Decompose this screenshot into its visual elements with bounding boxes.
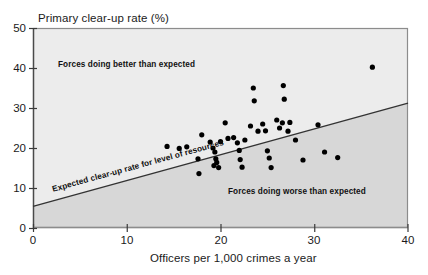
scatter-point (223, 120, 228, 125)
scatter-point (322, 149, 327, 154)
scatter-point (252, 98, 257, 103)
scatter-point (287, 120, 292, 125)
scatter-point (251, 85, 256, 90)
scatter-point (235, 140, 240, 145)
scatter-point (195, 156, 200, 161)
scatter-point (285, 129, 290, 134)
scatter-point (231, 135, 236, 140)
scatter-point (196, 171, 201, 176)
scatter-chart-figure: Primary clear-up rate (%) Officers per 1… (0, 0, 428, 275)
scatter-point (277, 125, 282, 130)
scatter-point (280, 120, 285, 125)
x-axis-title: Officers per 1,000 crimes a year (150, 252, 317, 264)
scatter-point (248, 123, 253, 128)
scatter-point (274, 117, 279, 122)
scatter-point (335, 155, 340, 160)
scatter-point (164, 144, 169, 149)
y-tick-label-40: 40 (4, 62, 26, 74)
scatter-point (237, 148, 242, 153)
scatter-point (281, 83, 286, 88)
scatter-point (263, 128, 268, 133)
scatter-point (269, 165, 274, 170)
y-tick-label-50: 50 (4, 22, 26, 34)
x-tick-label-10: 10 (114, 234, 140, 246)
scatter-point (260, 121, 265, 126)
scatter-point (315, 122, 320, 127)
scatter-point (216, 165, 221, 170)
annotation-better-than-expected: Forces doing better than expected (58, 60, 195, 69)
scatter-point (242, 137, 247, 142)
x-tick-label-30: 30 (301, 234, 327, 246)
y-tick-label-30: 30 (4, 102, 26, 114)
x-tick-label-20: 20 (208, 234, 234, 246)
scatter-point (267, 155, 272, 160)
scatter-point (239, 165, 244, 170)
x-tick-label-0: 0 (20, 234, 46, 246)
scatter-point (293, 137, 298, 142)
annotation-worse-than-expected: Forces doing worse than expected (228, 187, 366, 196)
scatter-point (265, 148, 270, 153)
scatter-point (211, 163, 216, 168)
x-tick-label-40: 40 (395, 234, 421, 246)
scatter-point (282, 97, 287, 102)
y-tick-label-10: 10 (4, 182, 26, 194)
scatter-point (199, 132, 204, 137)
scatter-point (238, 157, 243, 162)
scatter-point (300, 157, 305, 162)
scatter-point (225, 136, 230, 141)
y-tick-label-20: 20 (4, 142, 26, 154)
y-tick-label-0: 0 (4, 222, 26, 234)
scatter-point (255, 129, 260, 134)
scatter-point (212, 149, 217, 154)
y-axis-title: Primary clear-up rate (%) (38, 12, 169, 24)
scatter-point (370, 65, 375, 70)
